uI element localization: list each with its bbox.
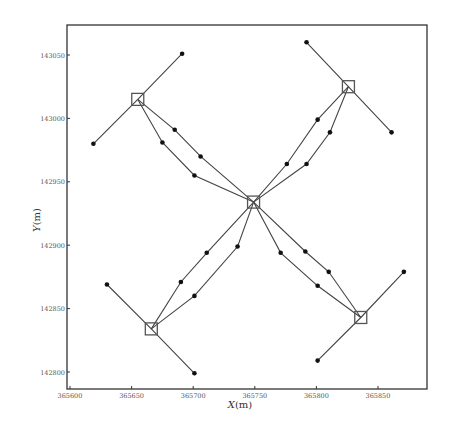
- data-point: [235, 244, 240, 249]
- data-point: [315, 117, 320, 122]
- y-axis-label: Y(m): [31, 208, 42, 232]
- series-line-bl-path-a: [151, 202, 253, 329]
- series-line-tl-arm: [93, 54, 182, 144]
- y-tick-label: 142800: [40, 369, 65, 377]
- data-point: [326, 270, 331, 275]
- data-point: [192, 173, 197, 178]
- data-point: [172, 128, 177, 133]
- data-point: [91, 141, 96, 146]
- data-point: [304, 162, 309, 167]
- data-point: [315, 358, 320, 363]
- data-point: [204, 251, 209, 256]
- y-tick-label: 142850: [40, 305, 65, 313]
- data-point: [328, 130, 333, 135]
- x-tick-label: 365650: [119, 392, 144, 400]
- data-point: [315, 283, 320, 288]
- y-tick-label: 142950: [40, 178, 65, 186]
- x-tick-label: 365700: [181, 392, 206, 400]
- series-line-br-path-b: [254, 202, 361, 317]
- series-line-bl-arm: [107, 285, 194, 374]
- x-axis-ticks: 365600365650365700365750365800365850: [58, 386, 391, 400]
- x-tick-label: 365800: [304, 392, 329, 400]
- x-tick-label: 365850: [366, 392, 391, 400]
- trajectory-chart: 365600365650365700365750365800365850 142…: [0, 0, 453, 423]
- data-point: [304, 40, 309, 45]
- data-point: [278, 251, 283, 256]
- data-point: [179, 280, 184, 285]
- data-point: [303, 249, 308, 254]
- data-point: [389, 130, 394, 135]
- x-tick-label: 365600: [58, 392, 83, 400]
- data-point: [192, 371, 197, 376]
- series-line-tr-path-a: [254, 87, 349, 202]
- y-tick-label: 143050: [40, 52, 65, 60]
- data-point: [180, 51, 185, 56]
- series-line-tl-path-a: [138, 99, 254, 202]
- data-point: [192, 294, 197, 299]
- data-point: [160, 140, 165, 145]
- series-line-bl-path-b: [151, 202, 253, 329]
- data-point: [105, 282, 110, 287]
- data-point: [198, 154, 203, 159]
- square-markers: [132, 81, 367, 335]
- series-line-br-arm: [318, 272, 404, 361]
- data-point: [285, 162, 290, 167]
- y-axis-ticks: 142800142850142900142950143000143050: [40, 52, 70, 377]
- y-tick-label: 142900: [40, 242, 65, 250]
- y-tick-label: 143000: [40, 115, 65, 123]
- series-line-br-path-a: [254, 202, 361, 317]
- data-point: [402, 270, 407, 275]
- x-axis-label: X(m): [227, 399, 253, 410]
